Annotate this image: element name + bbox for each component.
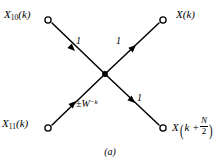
node-label-bottom-left-subscript: 11 <box>9 122 16 131</box>
fraction-denominator: 2 <box>200 127 208 136</box>
branch-line-top-left <box>52 23 105 74</box>
node-marker-top-left <box>45 17 51 23</box>
node-label-bottom-left-name: X <box>2 117 9 129</box>
node-label-bottom-right-arg-prefix: k + <box>184 121 199 133</box>
node-label-top-right-argument: (k) <box>183 8 195 20</box>
node-label-top-left-argument: (k) <box>18 8 30 20</box>
fraction-numerator: N <box>200 116 208 125</box>
node-label-top-left-name: X <box>4 8 11 20</box>
branch-gain-top-right: 1 <box>116 36 121 46</box>
twiddle-factor-exponent: −k <box>90 98 98 106</box>
twiddle-factor-symbol: W <box>82 98 90 109</box>
branch-gain-bottom-right: 1 <box>137 93 142 103</box>
figure-caption: (a) <box>0 146 220 157</box>
node-label-bottom-right-name: X <box>172 121 179 133</box>
node-label-bottom-left-argument: (k) <box>16 117 28 129</box>
branch-gain-top-left: 1 <box>76 36 81 46</box>
flow-graph-canvas <box>0 0 220 166</box>
node-marker-top-right <box>160 17 166 23</box>
node-label-bottom-right: X(k +N2) <box>172 116 214 137</box>
node-marker-bottom-right <box>160 125 166 131</box>
node-label-top-left: X10(k) <box>4 9 30 22</box>
fraction-n-over-2: N2 <box>200 116 208 137</box>
butterfly-flow-graph-figure: X10(k) X(k) X11(k) X(k +N2) 1 1 1 ±W−k (… <box>0 0 220 166</box>
branch-gain-bottom-left: ±W−k <box>76 99 98 109</box>
node-label-bottom-left: X11(k) <box>2 118 28 131</box>
node-label-top-right-name: X <box>176 8 183 20</box>
node-marker-bottom-left <box>45 125 51 131</box>
node-marker-center-junction <box>102 71 108 77</box>
node-label-top-right: X(k) <box>176 9 195 20</box>
